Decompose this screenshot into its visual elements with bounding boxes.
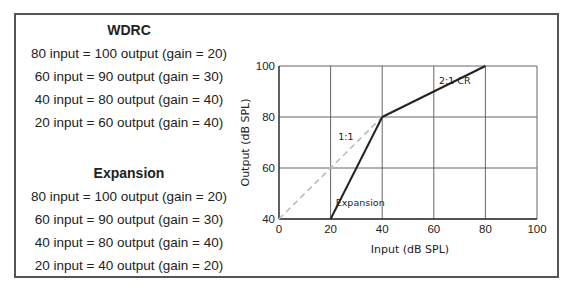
y-tick-label: 40 bbox=[262, 213, 275, 225]
x-tick-label: 80 bbox=[479, 223, 492, 235]
x-tick-label: 40 bbox=[376, 223, 389, 235]
y-tick-label: 80 bbox=[262, 111, 275, 123]
x-tick-label: 0 bbox=[276, 223, 282, 235]
x-tick-label: 100 bbox=[527, 223, 546, 235]
annotation-label: Expansion bbox=[336, 197, 385, 208]
x-axis-label: Input (dB SPL) bbox=[371, 243, 449, 256]
annotation-label: 1:1 bbox=[338, 131, 353, 142]
y-axis-label: Output (dB SPL) bbox=[239, 98, 252, 186]
y-tick-label: 60 bbox=[262, 162, 275, 174]
x-tick-label: 60 bbox=[427, 223, 440, 235]
y-tick-label: 100 bbox=[256, 60, 275, 72]
x-tick-label: 20 bbox=[324, 223, 337, 235]
io-function-chart: 020406080100406080100Input (dB SPL)Outpu… bbox=[0, 0, 568, 289]
annotation-label: 2:1 CR bbox=[439, 75, 471, 86]
